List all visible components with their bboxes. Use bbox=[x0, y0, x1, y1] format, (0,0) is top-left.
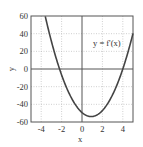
x-axis-label: x bbox=[78, 134, 83, 144]
x-tick-labels: -4-2024 bbox=[38, 124, 126, 134]
y-tick-label: 0 bbox=[24, 64, 28, 74]
y-tick-label: 20 bbox=[20, 46, 29, 56]
x-tick-label: 0 bbox=[80, 124, 84, 134]
curve-f-prime bbox=[45, 16, 133, 116]
y-tick-label: 60 bbox=[20, 11, 29, 21]
y-axis-label: y bbox=[6, 66, 16, 71]
x-tick-label: -4 bbox=[38, 124, 46, 134]
x-tick-label: 2 bbox=[100, 124, 104, 134]
curve-label: y = f'(x) bbox=[93, 38, 121, 48]
zero-axes bbox=[31, 16, 133, 122]
y-tick-label: -60 bbox=[17, 117, 28, 127]
x-tick-label: -2 bbox=[58, 124, 65, 134]
y-tick-label: 40 bbox=[20, 29, 29, 39]
y-tick-label: -40 bbox=[17, 99, 28, 109]
derivative-chart: y = f'(x) -60-40-200204060 -4-2024 x y bbox=[0, 0, 143, 147]
y-tick-labels: -60-40-200204060 bbox=[17, 11, 28, 127]
x-tick-label: 4 bbox=[121, 124, 126, 134]
y-tick-label: -20 bbox=[17, 82, 28, 92]
